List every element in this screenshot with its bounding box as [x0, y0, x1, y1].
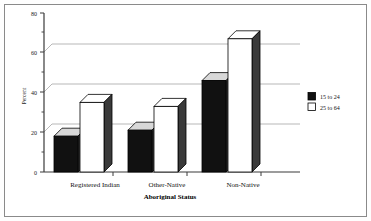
bar-group-other-native	[128, 98, 186, 172]
y-tick-label-0: 0	[34, 170, 37, 176]
legend-label-15-to-24: 15 to 24	[320, 94, 340, 100]
legend-swatch-25-to-64	[308, 103, 316, 111]
x-axis	[44, 172, 300, 176]
bar-registered-indian-25to64	[80, 94, 112, 172]
y-tick-label-60: 60	[31, 50, 37, 56]
bar-group-non-native	[202, 31, 260, 172]
y-axis-title: Percent	[21, 87, 27, 104]
y-axis	[40, 13, 44, 172]
legend-swatch-15-to-24	[308, 93, 316, 101]
y-tick-label-20: 20	[31, 130, 37, 136]
x-tick-label-non-native: Non-Native	[226, 181, 259, 189]
bar-non-native-25to64	[228, 31, 260, 172]
x-tick-label-other-native: Other-Native	[149, 181, 186, 189]
bar-other-native-25to64	[154, 98, 186, 172]
x-tick-label-registered-indian: Registered Indian	[70, 181, 120, 189]
legend-label-25-to-64: 25 to 64	[320, 105, 340, 111]
y-tick-label-40: 40	[31, 90, 37, 96]
x-axis-title: Aboriginal Status	[144, 193, 197, 201]
bar-group-registered-indian	[54, 94, 112, 172]
chart-legend: 15 to 24 25 to 64	[308, 93, 340, 111]
bar-chart-svg: 0 20 40 60 80 Percent	[0, 0, 371, 221]
chart-frame: 0 20 40 60 80 Percent	[0, 0, 371, 221]
y-tick-label-80: 80	[31, 11, 37, 17]
